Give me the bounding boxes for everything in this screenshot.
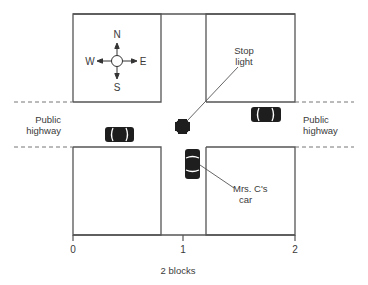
mrs-c-car-icon: [185, 149, 200, 179]
stop-light-label-line1: Stop: [228, 45, 260, 56]
stop-light-label: Stop light: [228, 45, 260, 67]
compass-south-label: S: [112, 82, 122, 93]
scale-caption: 2 blocks: [150, 265, 206, 276]
scale-tick-label-2: 2: [289, 244, 301, 255]
block-southwest: [73, 147, 161, 235]
scale-tick-label-0: 0: [67, 244, 79, 255]
highway-left-line1: Public: [14, 114, 61, 125]
compass-north-label: N: [112, 29, 122, 40]
scale-ticks: [73, 235, 295, 241]
compass-icon: [97, 43, 137, 79]
public-highway-left-label: Public highway: [14, 114, 61, 136]
mrs-c-car-label-line2: car: [233, 194, 283, 205]
intersection-diagram: N S W E Stop light Mrs. C's car Public h…: [0, 0, 368, 285]
compass-west-label: W: [84, 56, 96, 67]
highway-right-line1: Public: [303, 114, 353, 125]
mrs-c-car-leader: [200, 165, 234, 188]
stop-light-icon: [175, 119, 190, 134]
public-highway-right-label: Public highway: [303, 114, 353, 136]
compass-east-label: E: [138, 56, 148, 67]
stop-light-leader: [187, 67, 238, 121]
highway-left-line2: highway: [14, 125, 61, 136]
mrs-c-car-label: Mrs. C's car: [233, 183, 283, 205]
diagram-canvas: [0, 0, 368, 285]
stop-light-label-line2: light: [228, 56, 260, 67]
scale-tick-label-1: 1: [177, 244, 189, 255]
highway-right-line2: highway: [303, 125, 353, 136]
mrs-c-car-label-line1: Mrs. C's: [233, 183, 283, 194]
car-west-icon: [105, 127, 134, 142]
car-east-icon: [251, 107, 281, 122]
